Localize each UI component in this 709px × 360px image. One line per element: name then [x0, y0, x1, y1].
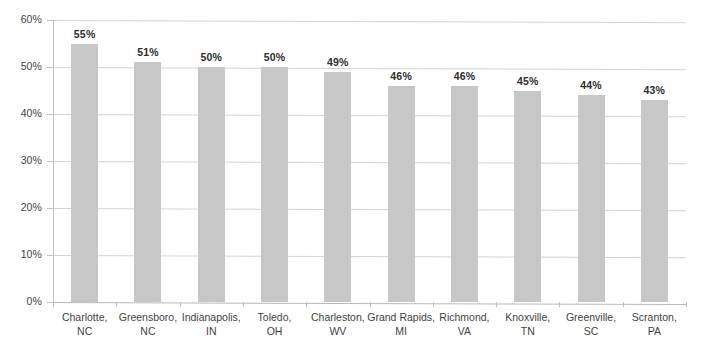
bar-value-label: 50%	[245, 51, 305, 63]
bar	[324, 72, 351, 302]
y-axis-tick	[47, 67, 53, 68]
x-axis-tick	[686, 302, 687, 307]
y-axis-tick-label: 50%	[0, 60, 42, 72]
category-label-line1: Indianapolis,	[182, 311, 241, 323]
category-label-line1: Charlotte,	[62, 311, 108, 323]
bar	[388, 86, 415, 302]
y-axis-tick	[47, 208, 53, 209]
bar-value-label: 44%	[561, 79, 621, 91]
bar	[451, 86, 478, 302]
x-axis-tick	[623, 302, 624, 307]
x-axis-tick	[496, 302, 497, 307]
gridline	[53, 20, 686, 23]
bar-value-label: 49%	[308, 56, 368, 68]
bar	[578, 95, 605, 302]
bar	[261, 67, 288, 302]
x-axis-tick	[116, 302, 117, 307]
bar-value-label: 43%	[624, 84, 684, 96]
bar-value-label: 55%	[55, 28, 115, 40]
y-axis-tick	[47, 255, 53, 256]
bar	[514, 91, 541, 303]
y-axis-tick	[47, 161, 53, 162]
bar-value-label: 46%	[371, 70, 431, 82]
y-axis-tick-label: 0%	[0, 295, 42, 307]
y-axis-line	[53, 20, 54, 303]
y-axis-tick	[47, 20, 53, 21]
y-axis-tick-label: 40%	[0, 107, 42, 119]
bar	[198, 67, 225, 302]
y-axis-tick-label: 20%	[0, 201, 42, 213]
y-axis-tick	[47, 114, 53, 115]
bar	[71, 44, 98, 303]
x-axis-tick	[180, 302, 181, 307]
bar-value-label: 51%	[118, 46, 178, 58]
bar-value-label: 45%	[498, 75, 558, 87]
bar-chart: 0%10%20%30%40%50%60% 55%51%50%50%49%46%4…	[0, 0, 709, 360]
category-label-line1: Knoxville,	[505, 311, 550, 323]
category-label-line1: Richmond,	[439, 311, 489, 323]
category-label-line2: PA	[614, 324, 694, 338]
bar	[641, 100, 668, 302]
category-label-line1: Scranton,	[632, 311, 677, 323]
x-axis-tick	[433, 302, 434, 307]
category-label-line1: Toledo,	[258, 311, 292, 323]
x-axis-tick	[53, 302, 54, 307]
x-axis-tick	[370, 302, 371, 307]
y-axis-tick-label: 10%	[0, 248, 42, 260]
bar-value-label: 46%	[434, 70, 494, 82]
bar-value-label: 50%	[181, 51, 241, 63]
x-axis-tick	[306, 302, 307, 307]
category-label-line1: Charleston,	[311, 311, 365, 323]
y-axis-tick-label: 60%	[0, 13, 42, 25]
category-label-line1: Greensboro,	[119, 311, 177, 323]
x-axis-tick	[243, 302, 244, 307]
bar	[134, 62, 161, 302]
x-axis-category-label: Scranton,PA	[614, 310, 694, 338]
category-label-line1: Greenville,	[566, 311, 616, 323]
y-axis-tick-label: 30%	[0, 154, 42, 166]
x-axis-tick	[559, 302, 560, 307]
